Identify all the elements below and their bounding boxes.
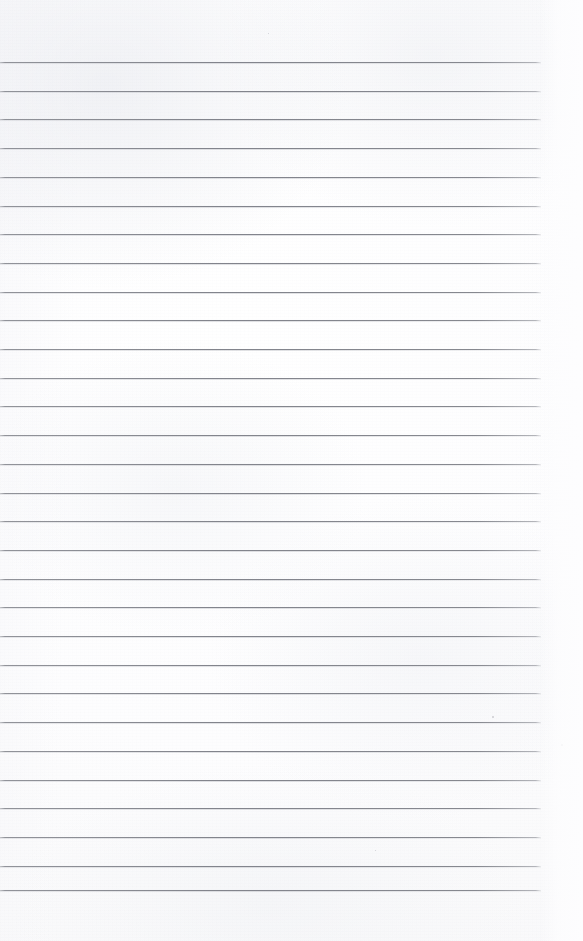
ruled-line xyxy=(0,62,541,63)
ruled-line xyxy=(0,91,541,92)
ruled-line xyxy=(0,866,541,867)
ruled-line xyxy=(0,464,541,465)
ruled-line xyxy=(0,636,541,637)
ruled-line xyxy=(0,550,541,551)
ruled-line xyxy=(0,722,541,723)
ruled-line xyxy=(0,607,541,608)
ruled-line xyxy=(0,406,541,407)
ruled-line xyxy=(0,234,541,235)
ruled-line xyxy=(0,349,541,350)
ruled-line xyxy=(0,493,541,494)
ruled-line xyxy=(0,378,541,379)
ruled-lines-layer xyxy=(0,0,583,941)
ruled-line xyxy=(0,693,541,694)
ruled-line xyxy=(0,263,541,264)
ruled-line xyxy=(0,837,541,838)
ruled-line xyxy=(0,119,541,120)
ruled-line xyxy=(0,177,541,178)
ruled-line xyxy=(0,148,541,149)
ruled-line xyxy=(0,521,541,522)
ruled-line xyxy=(0,808,541,809)
ruled-line xyxy=(0,435,541,436)
ruled-line xyxy=(0,751,541,752)
ruled-line xyxy=(0,292,541,293)
ruled-line xyxy=(0,890,541,891)
ruled-line xyxy=(0,579,541,580)
ruled-line xyxy=(0,320,541,321)
ruled-line xyxy=(0,780,541,781)
ruled-line xyxy=(0,206,541,207)
ruled-line xyxy=(0,665,541,666)
scanned-page xyxy=(0,0,583,941)
